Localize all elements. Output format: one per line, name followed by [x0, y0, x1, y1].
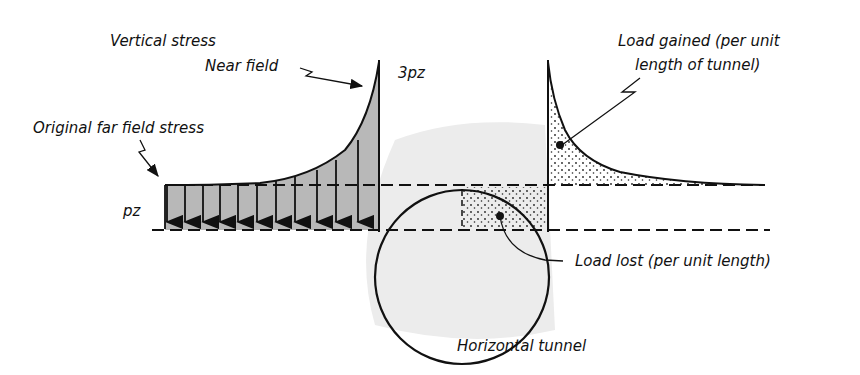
load-gained-label-line1: Load gained (per unit	[618, 32, 781, 50]
near-field-label: Near field	[205, 57, 279, 75]
original-far-field-label: Original far field stress	[33, 119, 204, 137]
load-lost-dot	[496, 212, 504, 220]
near-field-stress-area	[165, 62, 379, 230]
load-gained-dot	[556, 141, 564, 149]
far-field-leader	[139, 140, 158, 176]
load-lost-label: Load lost (per unit length)	[575, 252, 771, 270]
tunnel-stress-diagram: Vertical stress Near field 3pz Original …	[0, 0, 860, 375]
far-field-value-label: pz	[122, 202, 142, 220]
load-gained-leader	[562, 78, 640, 145]
load-lost-area	[462, 187, 546, 228]
tunnel-label: Horizontal tunnel	[457, 337, 587, 355]
near-field-leader	[300, 68, 362, 86]
diagram-svg: Vertical stress Near field 3pz Original …	[0, 0, 860, 375]
peak-stress-label: 3pz	[398, 64, 426, 82]
vertical-stress-label: Vertical stress	[110, 32, 216, 50]
load-gained-label-line2: length of tunnel)	[635, 56, 760, 74]
load-gained-area	[548, 62, 765, 185]
